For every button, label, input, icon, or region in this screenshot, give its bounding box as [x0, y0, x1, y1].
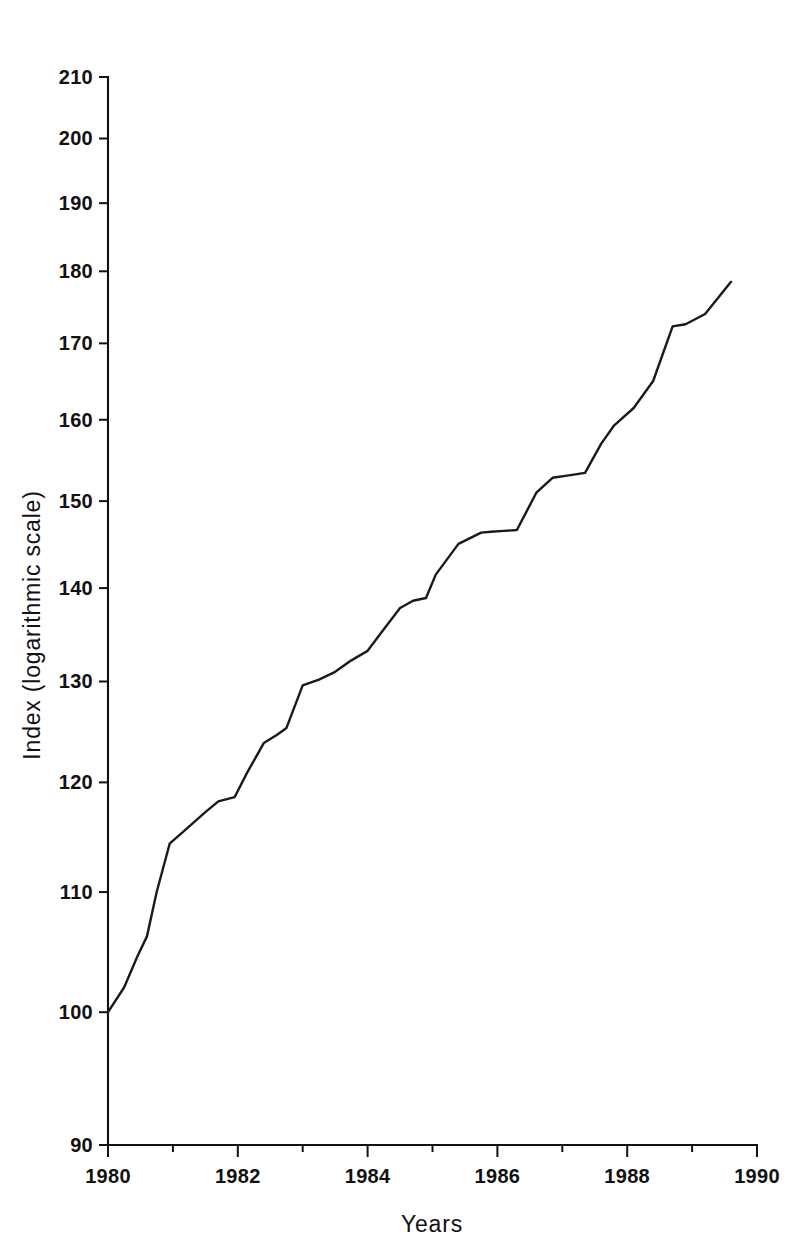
y-axis-tick-label: 160	[59, 409, 93, 431]
y-axis-tick-label: 110	[60, 881, 93, 903]
y-axis-tick-label: 150	[59, 490, 93, 512]
y-axis: 90100110120130140150160170180190200210	[59, 66, 108, 1156]
x-axis-tick-labels: 198019821984198619881990	[85, 1165, 780, 1187]
y-axis-tick-label: 190	[59, 192, 93, 214]
x-axis-title: Years	[401, 1211, 463, 1237]
index-line-chart: 90100110120130140150160170180190200210 1…	[0, 0, 811, 1260]
y-axis-title: Index (logarithmic scale)	[19, 490, 45, 759]
x-axis-tick-label: 1982	[215, 1165, 261, 1187]
x-axis-tick-label: 1990	[734, 1165, 780, 1187]
x-axis-tick-label: 1980	[85, 1165, 131, 1187]
data-series-line	[108, 282, 731, 1012]
y-axis-tick-label: 170	[59, 332, 93, 354]
y-axis-tick-label: 130	[59, 670, 93, 692]
y-axis-tick-label: 90	[70, 1134, 93, 1156]
y-axis-tick-label: 140	[59, 577, 93, 599]
x-axis-tick-label: 1984	[345, 1165, 391, 1187]
y-axis-tick-label: 120	[59, 771, 93, 793]
x-axis: 198019821984198619881990	[85, 1145, 780, 1187]
x-axis-tick-label: 1988	[604, 1165, 650, 1187]
y-axis-tick-label: 210	[59, 66, 93, 88]
chart-figure: 90100110120130140150160170180190200210 1…	[0, 0, 811, 1260]
x-axis-tick-label: 1986	[475, 1165, 521, 1187]
y-axis-tick-label: 180	[59, 260, 93, 282]
y-axis-tick-labels: 90100110120130140150160170180190200210	[59, 66, 93, 1156]
y-axis-tick-label: 200	[59, 127, 93, 149]
y-axis-ticks	[99, 77, 108, 1145]
y-axis-tick-label: 100	[59, 1001, 93, 1023]
